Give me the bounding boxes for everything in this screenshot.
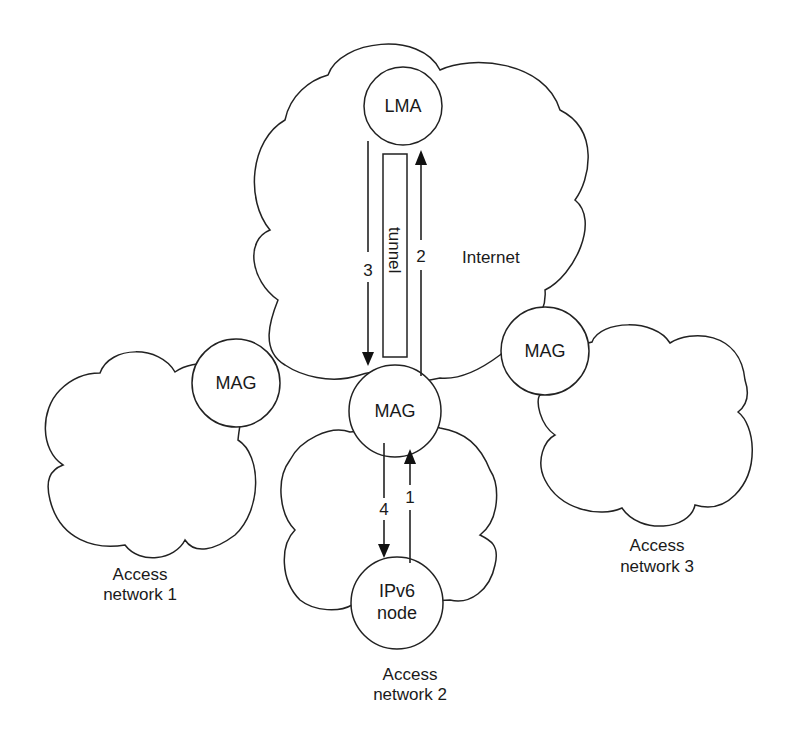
step-3-label: 3 — [363, 261, 372, 280]
ipv6-node-label-line2: node — [377, 603, 417, 623]
mag-access-network-2: MAG — [349, 365, 441, 457]
mag-2-label: MAG — [374, 401, 415, 421]
access-network-3-label-line1: Access — [630, 536, 685, 555]
mag-access-network-1: MAG — [192, 339, 280, 427]
ipv6-node-label-line1: IPv6 — [379, 581, 415, 601]
mag-1-label: MAG — [215, 373, 256, 393]
pmipv6-diagram: Internet Access network 1 Access network… — [0, 0, 790, 742]
mag-3-label: MAG — [524, 341, 565, 361]
mag-access-network-3: MAG — [501, 307, 589, 395]
lma-label: LMA — [384, 96, 421, 116]
access-network-2-label-line1: Access — [383, 665, 438, 684]
internet-label: Internet — [462, 248, 520, 267]
step-1-label: 1 — [405, 488, 414, 507]
tunnel-label: tunnel — [385, 227, 404, 273]
access-network-1-label-line1: Access — [113, 565, 168, 584]
access-network-3-label-line2: network 3 — [620, 557, 694, 576]
access-network-1-label-line2: network 1 — [103, 585, 177, 604]
step-2-label: 2 — [416, 247, 425, 266]
lma-node: LMA — [364, 67, 442, 145]
step-4-label: 4 — [379, 500, 388, 519]
ipv6-node: IPv6 node — [351, 557, 443, 649]
tunnel: tunnel — [383, 154, 407, 357]
access-network-2-label-line2: network 2 — [373, 685, 447, 704]
